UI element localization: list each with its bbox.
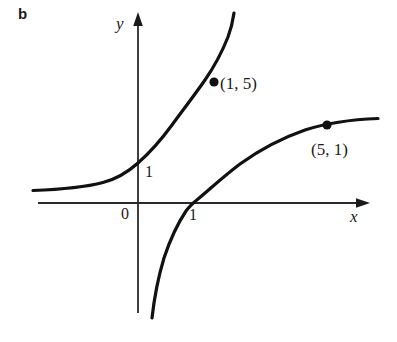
x-axis-label: x xyxy=(350,208,358,225)
point-label-1-5: (1, 5) xyxy=(220,75,257,92)
y-tick-label-1: 1 xyxy=(145,164,153,180)
origin-label: 0 xyxy=(121,206,129,222)
x-tick-label-1: 1 xyxy=(189,207,197,223)
y-axis-label: y xyxy=(116,15,124,32)
x-axis xyxy=(38,198,370,208)
exponential-curve xyxy=(33,13,234,191)
point-label-5-1: (5, 1) xyxy=(311,141,348,158)
data-point-1-5 xyxy=(209,77,218,86)
data-point-5-1 xyxy=(322,120,331,129)
graph-canvas xyxy=(0,0,397,342)
y-axis-arrowhead-icon xyxy=(133,12,143,26)
x-axis-arrowhead-icon xyxy=(356,198,370,208)
figure-panel: b y x 0 1 1 (1, 5) (5, 1) xyxy=(0,0,397,342)
